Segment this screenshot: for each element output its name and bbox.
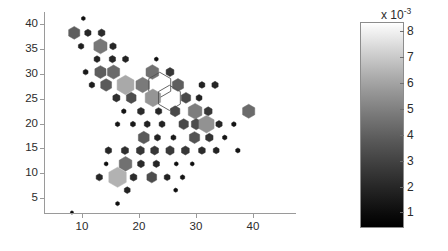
x-tick-label: 30: [176, 221, 216, 233]
hexbin-mark: [117, 75, 134, 94]
colorbar-tick-label: 5: [407, 103, 414, 115]
hexbin-mark: [122, 109, 126, 114]
hexbin-mark: [189, 132, 199, 144]
hexbin-mark: [81, 16, 85, 20]
hexbin-mark: [223, 135, 227, 140]
colorbar-tick: [400, 31, 404, 32]
colorbar-tick-label: 4: [407, 129, 414, 141]
colorbar: [360, 22, 404, 228]
hexbin-mark: [243, 104, 255, 118]
hexbin-mark: [199, 147, 206, 155]
colorbar-tick-label: 2: [407, 181, 414, 193]
hexbin-mark: [153, 160, 159, 167]
colorbar-tick-label: 8: [407, 25, 414, 37]
colorbar-tick-label: 3: [407, 155, 414, 167]
hexbin-mark: [190, 162, 194, 166]
hexbin-mark: [98, 29, 105, 37]
y-tick-label: 25: [8, 93, 38, 105]
hexbin-mark: [166, 68, 174, 77]
hexbin-mark: [96, 174, 102, 181]
hexbin-mark: [124, 187, 130, 194]
hexbin-mark: [89, 82, 94, 88]
colorbar-tick-label: 7: [407, 51, 414, 63]
hexbin-mark: [154, 57, 158, 61]
hexbin-mark: [196, 95, 202, 102]
y-tick-label: 20: [8, 118, 38, 130]
colorbar-tick: [400, 83, 404, 84]
hexbin-mark: [138, 131, 149, 143]
colorbar-tick: [400, 187, 404, 188]
y-tick-label: 15: [8, 142, 38, 154]
hexbin-mark: [138, 160, 145, 168]
hexbin-mark: [85, 29, 91, 36]
hexbin-mark: [136, 77, 149, 92]
hexbin-mark: [212, 81, 218, 88]
x-tick: [196, 214, 197, 218]
colorbar-gradient: [360, 22, 404, 228]
hexbin-mark: [116, 201, 120, 205]
hexbin-mark: [130, 173, 137, 181]
hexbin-mark: [159, 121, 165, 128]
y-tick-label: 35: [8, 43, 38, 55]
colorbar-tick: [400, 212, 404, 213]
hexbin-mark: [206, 133, 213, 142]
x-tick: [82, 214, 83, 218]
hexbin-mark: [181, 92, 190, 103]
hexbin-mark: [94, 39, 107, 54]
figure-root: 51015202530354010203040 x 10-3 12345678: [0, 0, 448, 251]
colorbar-tick: [400, 135, 404, 136]
y-tick: [40, 74, 44, 75]
y-tick-label: 30: [8, 68, 38, 80]
colorbar-tick: [400, 161, 404, 162]
colorbar-tick-label: 6: [407, 77, 414, 89]
hexbin-mark: [199, 82, 205, 89]
hexbin-mark: [131, 121, 136, 127]
hexbin-mark: [182, 146, 190, 155]
hexbin-mark: [126, 92, 136, 103]
hexbin-mark: [236, 148, 240, 153]
x-tick-label: 10: [62, 221, 102, 233]
hexbin-mark: [170, 106, 179, 117]
hexbin-mark: [119, 157, 132, 172]
hexbin-mark: [147, 172, 157, 183]
hexbin-mark: [232, 122, 236, 127]
y-tick: [40, 49, 44, 50]
scatter-plot-panel: 51015202530354010203040: [0, 0, 330, 251]
hexbin-mark: [174, 188, 178, 192]
y-tick: [40, 99, 44, 100]
hexbin-mark: [136, 146, 144, 155]
hexbin-mark: [155, 134, 161, 141]
hexbin-mark: [213, 147, 219, 154]
hexbin-mark: [138, 107, 145, 115]
hexbin-mark: [109, 56, 115, 63]
hexbin-mark: [144, 121, 150, 128]
hexbin-mark: [78, 43, 83, 49]
x-tick: [253, 214, 254, 218]
hexbin-mark: [121, 146, 128, 154]
x-tick-label: 40: [233, 221, 273, 233]
x-tick: [139, 214, 140, 218]
hexbin-mark: [94, 56, 100, 63]
hexbin-mark: [101, 79, 112, 91]
y-tick-label: 40: [8, 18, 38, 30]
hexbin-mark: [146, 65, 159, 80]
hexbin-mark: [83, 69, 88, 75]
y-tick: [40, 24, 44, 25]
y-tick: [40, 148, 44, 149]
hexbin-mark: [104, 162, 108, 166]
hexbin-mark: [204, 107, 212, 116]
colorbar-tick-label: 1: [407, 206, 414, 218]
y-axis-line: [44, 12, 45, 214]
hexbin-mark: [164, 174, 170, 181]
colorbar-exponent-label: x 10-3: [381, 5, 411, 21]
colorbar-tick: [400, 109, 404, 110]
hexbin-mark: [155, 108, 161, 115]
hexbin-mark: [188, 103, 202, 119]
hexbin-mark: [105, 147, 111, 154]
hexbin-mark: [199, 115, 214, 132]
x-tick-label: 20: [119, 221, 159, 233]
hexbin-mark: [151, 146, 159, 155]
hexbin-mark: [69, 26, 80, 39]
y-tick: [40, 198, 44, 199]
hexbin-mark: [172, 79, 183, 92]
